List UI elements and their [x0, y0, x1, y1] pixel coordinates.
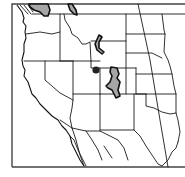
eastern-state-edge: [162, 14, 180, 142]
range-map: [0, 0, 185, 177]
id-mt-border: [64, 14, 91, 61]
wa-or-border: [26, 32, 60, 34]
map-frame: [12, 4, 185, 167]
range-map-svg: [0, 0, 185, 177]
texas-rio-grande: [100, 130, 178, 166]
ok-tx-border: [146, 94, 176, 114]
baja-peninsula: [70, 136, 86, 166]
point-northeast-utah: [92, 66, 99, 73]
pacific-coastline: [17, 5, 84, 166]
range-north-idaho: [68, 4, 77, 15]
range-wyoming: [95, 35, 104, 54]
sd-ne-border: [126, 53, 162, 58]
range-colorado: [106, 67, 120, 98]
ca-nv-border: [45, 61, 73, 128]
nm-tx-border: [100, 94, 134, 130]
